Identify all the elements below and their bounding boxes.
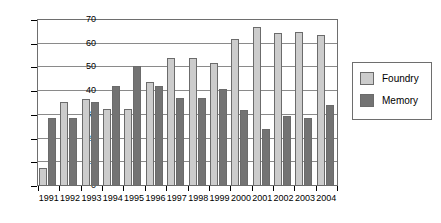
y-tick-mark-60 [31, 44, 37, 45]
bar-group-2004 [316, 20, 337, 186]
bar-memory-1997 [176, 98, 184, 186]
bar-foundry-1992 [60, 102, 68, 186]
bar-memory-2000 [240, 110, 248, 186]
legend-swatch-memory [360, 94, 374, 107]
bar-foundry-1997 [167, 58, 175, 186]
bar-foundry-2001 [253, 27, 261, 186]
bar-foundry-1991 [39, 168, 47, 186]
bar-foundry-1993 [82, 99, 90, 186]
bar-memory-2004 [326, 105, 334, 186]
y-tick-mark-30 [31, 115, 37, 116]
bar-group-1993 [81, 20, 102, 186]
bar-memory-1998 [198, 98, 206, 186]
bars-layer [38, 20, 337, 186]
x-tick-mark-1995 [145, 186, 146, 191]
bar-group-2002 [273, 20, 294, 186]
x-tick-mark-1992 [81, 186, 82, 191]
bar-foundry-2002 [274, 33, 282, 186]
x-tick-mark-1993 [102, 186, 103, 191]
bar-memory-1995 [133, 66, 141, 186]
bar-memory-1992 [69, 118, 77, 186]
y-tick-mark-0 [31, 186, 37, 187]
y-tick-mark-50 [31, 67, 37, 68]
legend-swatch-foundry [360, 72, 374, 85]
x-tick-mark-1991 [59, 186, 60, 191]
y-tick-mark-20 [31, 139, 37, 140]
bar-group-2001 [252, 20, 273, 186]
bar-group-1995 [123, 20, 144, 186]
chart-legend: Foundry Memory [352, 62, 432, 120]
bar-group-1994 [102, 20, 123, 186]
bar-foundry-2000 [231, 39, 239, 186]
bar-memory-1999 [219, 89, 227, 186]
legend-label-memory: Memory [382, 95, 418, 106]
bar-memory-2003 [304, 118, 312, 186]
bar-memory-1994 [112, 86, 120, 186]
x-tick-mark-1996 [166, 186, 167, 191]
x-tick-mark-origin [38, 186, 39, 191]
bar-chart: 010203040506070 199119921993199419951996… [0, 0, 441, 223]
bar-foundry-1995 [124, 109, 132, 186]
bar-group-2000 [230, 20, 251, 186]
x-tick-mark-2004 [337, 186, 338, 191]
bar-group-1992 [59, 20, 80, 186]
bar-group-2003 [294, 20, 315, 186]
y-tick-mark-70 [31, 20, 37, 21]
bar-memory-2002 [283, 116, 291, 186]
bar-memory-1993 [91, 102, 99, 186]
legend-label-foundry: Foundry [382, 73, 419, 84]
y-tick-mark-40 [31, 91, 37, 92]
x-tick-mark-1994 [123, 186, 124, 191]
x-tick-mark-2001 [273, 186, 274, 191]
bar-group-1998 [188, 20, 209, 186]
x-tick-mark-1998 [209, 186, 210, 191]
x-tick-mark-2000 [252, 186, 253, 191]
bar-memory-1991 [48, 118, 56, 186]
x-tick-mark-2002 [294, 186, 295, 191]
bar-group-1996 [145, 20, 166, 186]
bar-memory-1996 [155, 86, 163, 186]
bar-foundry-2004 [317, 35, 325, 186]
x-tick-mark-2003 [316, 186, 317, 191]
bar-foundry-1999 [210, 63, 218, 186]
bar-group-1997 [166, 20, 187, 186]
bar-group-1999 [209, 20, 230, 186]
x-tick-mark-1999 [230, 186, 231, 191]
bar-memory-2001 [262, 129, 270, 186]
bar-group-1991 [38, 20, 59, 186]
x-tick-mark-1997 [188, 186, 189, 191]
y-tick-mark-10 [31, 162, 37, 163]
x-tick-label-2004: 2004 [311, 193, 341, 203]
bar-foundry-2003 [295, 32, 303, 186]
bar-foundry-1998 [189, 58, 197, 186]
bar-foundry-1994 [103, 109, 111, 186]
bar-foundry-1996 [146, 82, 154, 186]
